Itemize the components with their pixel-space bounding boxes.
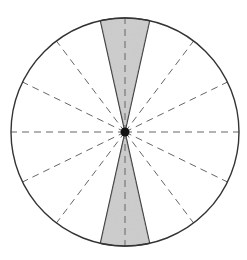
dashed-spoke <box>23 82 125 132</box>
dashed-spoke <box>125 82 227 132</box>
dashed-spoke <box>23 132 125 182</box>
center-point <box>121 128 130 137</box>
circle-diagram <box>0 0 247 260</box>
dashed-spoke <box>125 132 227 182</box>
